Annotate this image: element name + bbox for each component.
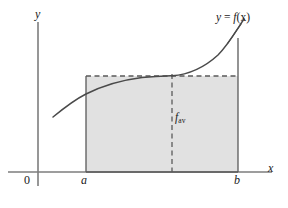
upper-bound-label-b: b bbox=[234, 174, 240, 186]
average-value-figure: y x 0 a b y = f(x) fav bbox=[0, 0, 288, 208]
y-axis-label: y bbox=[35, 8, 40, 20]
average-value-label: fav bbox=[175, 112, 186, 124]
shaded-area-rectangle bbox=[86, 76, 238, 172]
average-value-subscript: av bbox=[178, 116, 185, 125]
lower-bound-label-a: a bbox=[81, 174, 87, 186]
curve-label-argument: (x) bbox=[237, 11, 250, 23]
figure-canvas bbox=[0, 0, 288, 208]
x-axis-label: x bbox=[268, 162, 273, 174]
origin-label: 0 bbox=[24, 174, 30, 186]
curve-label-leader-line bbox=[228, 24, 241, 43]
curve-equation-label: y = f(x) bbox=[216, 12, 250, 24]
curve-label-equals: = bbox=[221, 11, 233, 23]
